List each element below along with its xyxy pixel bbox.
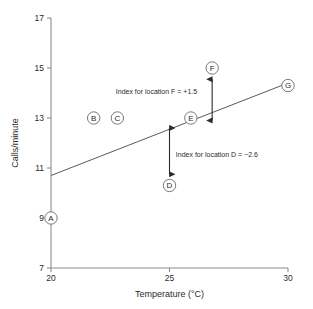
y-tick-label: 9: [39, 213, 44, 223]
y-tick-label: 13: [35, 113, 45, 123]
data-point-label: C: [114, 114, 120, 123]
data-point-label: F: [210, 64, 215, 73]
scatter-chart: 7911131517202530 Index for location F = …: [0, 0, 313, 309]
y-tick-label: 7: [39, 263, 44, 273]
x-tick-label: 25: [165, 273, 175, 283]
data-point-label: A: [48, 214, 54, 223]
data-point-label: G: [285, 81, 291, 90]
data-point-label: E: [188, 114, 193, 123]
x-axis-title: Temperature (°C): [135, 289, 204, 299]
data-point-f: F: [206, 62, 218, 74]
y-tick-label: 15: [35, 63, 45, 73]
data-point-label: B: [91, 114, 96, 123]
annotation-layer: Index for location F = +1.5Index for loc…: [116, 79, 258, 174]
data-point-e: E: [185, 112, 197, 124]
x-tick-label: 30: [283, 273, 293, 283]
data-point-g: G: [282, 79, 294, 91]
annotation-text-index-f: Index for location F = +1.5: [116, 88, 197, 95]
data-point-b: B: [87, 112, 99, 124]
axes: 7911131517202530: [35, 13, 293, 283]
y-axis-title: Calls/minute: [10, 118, 20, 168]
annotation-text-index-d: Index for location D = −2.6: [176, 151, 258, 158]
data-point-c: C: [111, 112, 123, 124]
data-point-d: D: [163, 179, 175, 191]
data-point-a: A: [45, 212, 57, 224]
y-tick-label: 17: [35, 13, 45, 23]
y-tick-label: 11: [35, 163, 44, 173]
x-tick-label: 20: [46, 273, 56, 283]
data-point-label: D: [167, 181, 173, 190]
chart-canvas: 7911131517202530 Index for location F = …: [0, 0, 313, 309]
